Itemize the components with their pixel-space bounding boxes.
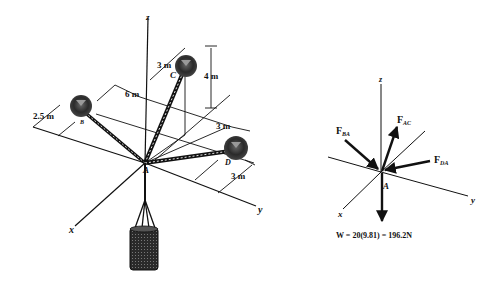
x-axis xyxy=(75,163,145,226)
dim-3m-d1: 3 m xyxy=(216,121,231,131)
dim-6m: 6 m xyxy=(125,89,140,99)
dim-4m: 4 m xyxy=(204,71,219,81)
fbd-y-axis xyxy=(381,172,468,196)
dimension-lines xyxy=(33,46,255,175)
balloon-d xyxy=(224,136,248,160)
y-axis-label: y xyxy=(257,204,263,215)
balloon-b xyxy=(70,95,92,117)
balloon-c xyxy=(175,55,197,77)
z-axis-label: z xyxy=(145,12,150,22)
dim-3m-c: 3 m xyxy=(157,60,172,70)
z-axis xyxy=(145,18,148,163)
force-ba-arrow xyxy=(345,140,378,169)
point-b-label: B xyxy=(79,119,84,125)
y-axis xyxy=(145,163,256,206)
force-da-label: FDA xyxy=(434,154,448,166)
space-diagram: z x y xyxy=(33,12,263,270)
fbd-x-axis xyxy=(343,172,381,209)
point-d-label: D xyxy=(224,158,231,167)
free-body-diagram: z x y A FBA FAC FDA W = 20(9.81) = 196.2… xyxy=(328,75,476,240)
x-axis-label: x xyxy=(68,224,74,235)
dim-2-5m: 2.5 m xyxy=(33,111,55,121)
fbd-x-label: x xyxy=(337,209,343,219)
hanging-cylinder xyxy=(130,163,158,270)
force-ac-label: FAC xyxy=(397,114,412,126)
point-c-label: C xyxy=(170,70,177,80)
fbd-y-label: y xyxy=(470,195,476,205)
weight-equation: W = 20(9.81) = 196.2N xyxy=(336,231,412,240)
y-axis-back xyxy=(33,127,145,163)
fbd-z-label: z xyxy=(378,75,383,84)
force-ba-label: FBA xyxy=(336,125,350,137)
figure-canvas: z x y xyxy=(0,0,500,281)
fbd-axes xyxy=(328,84,468,209)
dim-3m-d2: 3 m xyxy=(231,171,246,181)
